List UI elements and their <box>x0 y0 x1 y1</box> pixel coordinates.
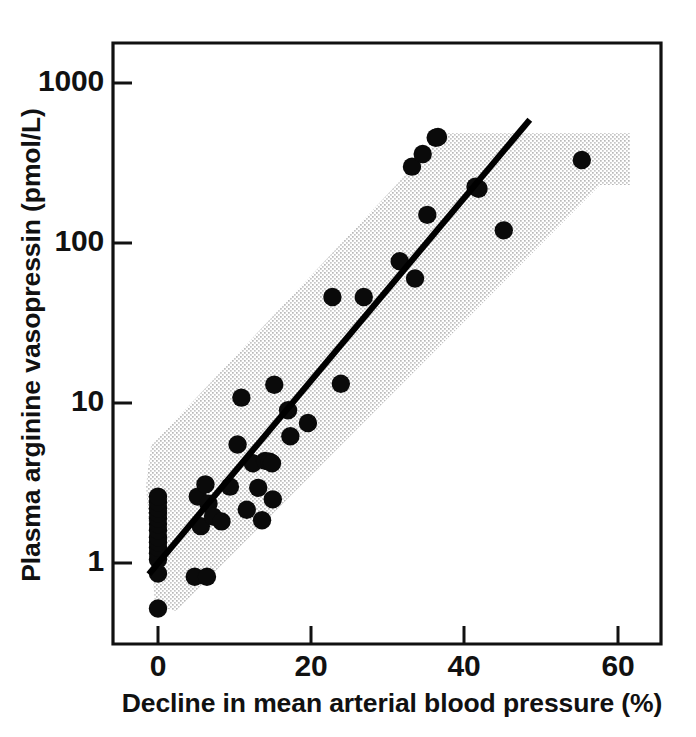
data-point <box>249 479 267 497</box>
data-point <box>264 490 282 508</box>
data-point <box>196 475 214 493</box>
x-axis-title: Decline in mean arterial blood pressure … <box>122 688 663 718</box>
y-axis-ticks <box>113 83 132 563</box>
data-point <box>413 145 431 163</box>
data-point <box>429 128 447 146</box>
scatter-plot: 1000 100 10 1 0 20 40 60 Decline in mean… <box>0 0 696 737</box>
data-point <box>265 376 283 394</box>
y-tick-label-1: 1 <box>88 544 105 577</box>
data-point <box>323 288 341 306</box>
data-point <box>149 599 167 617</box>
x-tick-label-40: 40 <box>448 649 481 682</box>
y-axis-title: Plasma arginine vasopressin (pmol/L) <box>16 108 46 582</box>
prediction-band <box>146 133 630 611</box>
x-tick-labels: 0 20 40 60 <box>150 649 635 682</box>
data-point <box>228 435 246 453</box>
regression-line <box>149 120 530 575</box>
x-axis-ticks <box>158 626 618 644</box>
data-point <box>495 221 513 239</box>
data-point <box>281 427 299 445</box>
data-point <box>253 511 271 529</box>
data-point <box>238 501 256 519</box>
data-point <box>573 151 591 169</box>
data-point <box>232 388 250 406</box>
data-point <box>355 288 373 306</box>
x-tick-label-20: 20 <box>295 649 328 682</box>
figure-container: 1000 100 10 1 0 20 40 60 Decline in mean… <box>0 0 696 737</box>
y-tick-label-100: 100 <box>55 224 104 257</box>
x-tick-label-0: 0 <box>150 649 167 682</box>
data-point <box>263 454 281 472</box>
prediction-band-group <box>146 133 630 611</box>
y-tick-label-1000: 1000 <box>38 64 104 97</box>
y-tick-label-10: 10 <box>71 384 104 417</box>
data-point <box>299 414 317 432</box>
data-point <box>198 568 216 586</box>
data-point <box>149 487 167 505</box>
data-point <box>418 206 436 224</box>
x-tick-label-60: 60 <box>602 649 635 682</box>
data-point <box>332 375 350 393</box>
data-point <box>212 512 230 530</box>
y-tick-labels: 1000 100 10 1 <box>38 64 104 577</box>
data-point <box>406 269 424 287</box>
